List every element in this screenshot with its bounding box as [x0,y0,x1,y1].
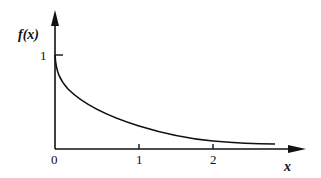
x-axis-arrow-icon [288,145,306,153]
y-axis-label: f(x) [18,28,39,42]
x-tick-label-0: 0 [51,153,58,166]
plot-canvas [0,0,321,178]
x-axis-label: x [284,160,291,174]
x-tick-label-1: 1 [136,153,143,166]
x-tick-label-2: 2 [210,153,217,166]
y-tick-label-1: 1 [40,49,47,62]
function-curve [55,55,275,144]
y-axis-arrow-icon [51,10,59,26]
